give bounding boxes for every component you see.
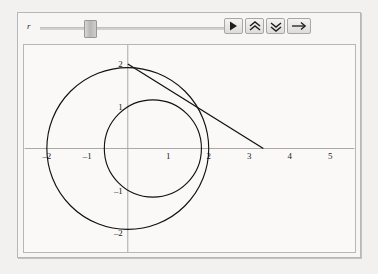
y-tick-label: –2 xyxy=(113,228,123,238)
parameter-slider[interactable] xyxy=(40,20,235,36)
x-tick-label: –2 xyxy=(41,151,51,161)
slider-thumb[interactable] xyxy=(84,20,97,38)
play-button[interactable] xyxy=(224,18,243,34)
manipulate-panel: r xyxy=(17,12,361,258)
animation-buttons xyxy=(224,18,311,34)
tangent-line xyxy=(128,64,264,148)
slider-track[interactable] xyxy=(40,27,235,30)
double-chevron-up-icon xyxy=(249,21,261,32)
step-up-button[interactable] xyxy=(245,18,264,34)
y-tick-label: –1 xyxy=(113,186,123,196)
play-icon xyxy=(229,21,238,31)
x-tick-label: 5 xyxy=(328,151,333,161)
plot-frame[interactable]: –2–11234521–1–2 xyxy=(23,44,356,253)
x-tick-label: –1 xyxy=(82,151,92,161)
x-tick-label: 1 xyxy=(166,151,170,161)
plot-canvas[interactable]: –2–11234521–1–2 xyxy=(24,45,355,252)
slider-label-r: r xyxy=(27,21,31,31)
double-chevron-down-icon xyxy=(270,21,282,32)
x-tick-label: 3 xyxy=(247,151,252,161)
step-down-button[interactable] xyxy=(266,18,285,34)
axes xyxy=(25,45,355,252)
right-arrow-icon xyxy=(291,21,307,31)
plot-curves xyxy=(47,64,264,229)
x-tick-label: 4 xyxy=(287,151,292,161)
direction-button[interactable] xyxy=(287,18,311,34)
control-bar: r xyxy=(18,13,360,43)
